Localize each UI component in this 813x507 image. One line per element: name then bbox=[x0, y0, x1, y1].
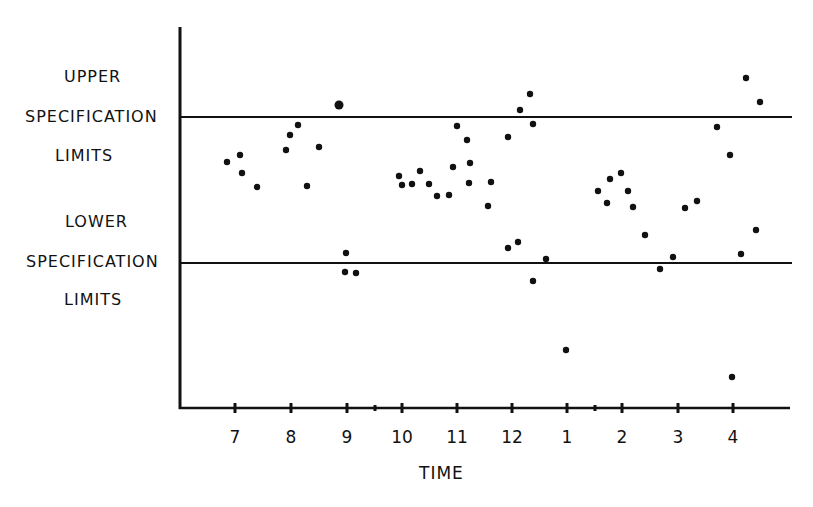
data-point bbox=[434, 193, 440, 199]
data-point bbox=[757, 99, 763, 105]
data-point bbox=[515, 239, 521, 245]
usl-label-line1: UPPER bbox=[64, 67, 121, 86]
data-point bbox=[239, 170, 245, 176]
data-point bbox=[657, 266, 663, 272]
x-tick-label: 2 bbox=[617, 427, 628, 447]
data-point bbox=[488, 179, 494, 185]
data-point bbox=[466, 180, 472, 186]
data-point bbox=[530, 278, 536, 284]
data-point bbox=[446, 192, 452, 198]
data-point bbox=[343, 250, 349, 256]
data-point bbox=[335, 101, 344, 110]
lsl-label-line2: SPECIFICATION bbox=[26, 252, 159, 271]
data-point bbox=[618, 170, 624, 176]
data-point bbox=[287, 132, 293, 138]
data-point bbox=[729, 374, 735, 380]
data-point bbox=[527, 91, 533, 97]
data-point bbox=[254, 184, 260, 190]
lsl-label-line1: LOWER bbox=[65, 212, 128, 231]
data-point bbox=[604, 200, 610, 206]
lsl-label-line3: LIMITS bbox=[64, 290, 122, 309]
x-tick-label: 8 bbox=[286, 427, 297, 447]
data-point bbox=[505, 134, 511, 140]
data-point bbox=[485, 203, 491, 209]
data-point bbox=[409, 181, 415, 187]
data-point bbox=[237, 152, 243, 158]
data-point bbox=[396, 173, 402, 179]
data-point bbox=[630, 204, 636, 210]
data-point bbox=[283, 147, 289, 153]
data-point bbox=[417, 168, 423, 174]
data-point bbox=[353, 270, 359, 276]
data-point bbox=[563, 347, 569, 353]
data-point bbox=[543, 256, 549, 262]
data-point bbox=[738, 251, 744, 257]
data-point bbox=[467, 160, 473, 166]
data-point bbox=[505, 245, 511, 251]
data-point bbox=[753, 227, 759, 233]
data-point bbox=[642, 232, 648, 238]
data-point bbox=[464, 137, 470, 143]
x-tick-label: 3 bbox=[673, 427, 684, 447]
usl-label-line3: LIMITS bbox=[55, 146, 113, 165]
data-point bbox=[426, 181, 432, 187]
x-tick-label: 11 bbox=[446, 427, 468, 447]
data-point bbox=[670, 254, 676, 260]
x-tick-label: 4 bbox=[728, 427, 739, 447]
data-point bbox=[342, 269, 348, 275]
data-point bbox=[399, 182, 405, 188]
x-tick-label: 12 bbox=[501, 427, 523, 447]
data-point bbox=[316, 144, 322, 150]
data-point bbox=[607, 176, 613, 182]
usl-label-line2: SPECIFICATION bbox=[25, 107, 158, 126]
data-point bbox=[727, 152, 733, 158]
x-tick-label: 1 bbox=[562, 427, 573, 447]
data-point bbox=[450, 164, 456, 170]
data-point bbox=[682, 205, 688, 211]
data-point bbox=[517, 107, 523, 113]
data-point bbox=[224, 159, 230, 165]
data-point bbox=[714, 124, 720, 130]
data-point bbox=[530, 121, 536, 127]
x-tick-label: 9 bbox=[342, 427, 353, 447]
data-point bbox=[295, 122, 301, 128]
data-point bbox=[694, 198, 700, 204]
data-point bbox=[454, 123, 460, 129]
data-point bbox=[595, 188, 601, 194]
data-point bbox=[743, 75, 749, 81]
data-points bbox=[224, 75, 763, 380]
data-point bbox=[625, 188, 631, 194]
x-axis-label: TIME bbox=[419, 463, 464, 483]
data-point bbox=[304, 183, 310, 189]
x-tick-label: 10 bbox=[391, 427, 413, 447]
x-tick-label: 7 bbox=[230, 427, 241, 447]
